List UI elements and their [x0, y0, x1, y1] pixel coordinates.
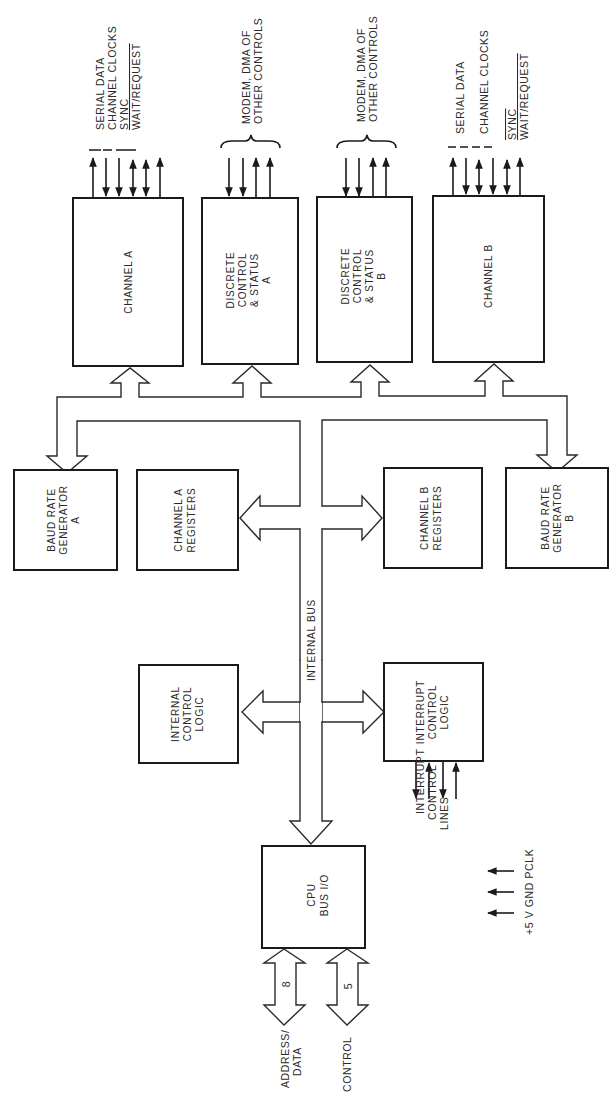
internal-bus-label: INTERNAL BUS [306, 599, 317, 681]
channel-b-signal-lines [448, 147, 520, 196]
svg-text:SYNC: SYNC [118, 98, 130, 130]
svg-text:GENERATOR: GENERATOR [58, 485, 69, 555]
interrupt-control-bus-arrow [322, 691, 384, 733]
channel-b-signal-labels: SERIAL DATA CHANNEL CLOCKS SYNC WAIT/REQ… [454, 30, 530, 140]
svg-text:BAUD RATE: BAUD RATE [540, 486, 551, 550]
svg-text:BUS I/O: BUS I/O [319, 874, 330, 916]
block-diagram: SERIAL DATA CHANNEL CLOCKS SYNC WAIT/REQ… [0, 0, 615, 1097]
svg-text:REGISTERS: REGISTERS [432, 486, 443, 551]
svg-text:SYNC: SYNC [506, 108, 518, 140]
svg-text:LINES: LINES [438, 797, 450, 830]
svg-text:GENERATOR: GENERATOR [552, 483, 563, 553]
svg-text:A: A [261, 276, 272, 283]
svg-text:CHANNEL CLOCKS: CHANNEL CLOCKS [106, 26, 118, 130]
power-input-arrows [488, 871, 514, 913]
svg-text:SERIAL DATA: SERIAL DATA [94, 57, 106, 130]
channel-a-signal-lines [89, 150, 160, 198]
dcs-b-signal-lines [337, 135, 396, 198]
internal-control-bus-arrow [242, 691, 300, 733]
chan-a-regs-bus-arrow [240, 496, 300, 540]
svg-text:MODEM, DMA OF: MODEM, DMA OF [355, 28, 367, 122]
svg-text:INTERNAL: INTERNAL [170, 686, 181, 742]
svg-text:B: B [564, 514, 575, 521]
address-data-label: ADDRESS/ DATA [279, 1030, 303, 1088]
control-bus-width: 5 [342, 983, 354, 989]
svg-text:INTERRUPT: INTERRUPT [414, 749, 426, 814]
control-label: CONTROL [341, 1036, 353, 1092]
svg-text:A: A [70, 516, 81, 523]
svg-text:LOGIC: LOGIC [439, 694, 450, 729]
svg-text:DISCRETE: DISCRETE [225, 252, 236, 309]
chan-b-regs-bus-arrow [322, 496, 382, 540]
address-data-width: 8 [280, 981, 292, 987]
svg-text:REGISTERS: REGISTERS [186, 488, 197, 553]
svg-text:BAUD RATE: BAUD RATE [46, 488, 57, 552]
svg-text:OTHER CONTROLS: OTHER CONTROLS [367, 16, 379, 122]
channel-b-label: CHANNEL B [483, 244, 494, 308]
svg-text:CHANNEL A: CHANNEL A [173, 488, 184, 552]
svg-text:B: B [376, 272, 387, 279]
channel-a-label: CHANNEL A [123, 250, 134, 314]
dcs-a-signal-lines [221, 135, 280, 198]
channel-a-signal-labels: SERIAL DATA CHANNEL CLOCKS SYNC WAIT/REQ… [94, 26, 142, 130]
svg-text:& STATUS: & STATUS [364, 249, 375, 303]
svg-text:CHANNEL B: CHANNEL B [419, 486, 430, 550]
svg-text:CPU: CPU [306, 883, 317, 907]
cpu-bus-arrow [290, 660, 332, 844]
svg-text:CONTROL: CONTROL [426, 764, 438, 820]
svg-text:ADDRESS/: ADDRESS/ [279, 1030, 291, 1088]
svg-text:MODEM, DMA OF: MODEM, DMA OF [240, 30, 252, 124]
svg-text:OTHER CONTROLS: OTHER CONTROLS [252, 18, 264, 124]
svg-text:CONTROL: CONTROL [427, 685, 438, 740]
dcs-b-signal-labels: MODEM, DMA OF OTHER CONTROLS [355, 16, 379, 122]
svg-text:CONTROL: CONTROL [237, 253, 248, 308]
svg-text:& STATUS: & STATUS [249, 253, 260, 307]
svg-text:DATA: DATA [291, 1047, 303, 1076]
svg-text:CONTROL: CONTROL [182, 687, 193, 742]
svg-text:CONTROL: CONTROL [352, 249, 363, 304]
svg-text:WAIT/REQUEST: WAIT/REQUEST [130, 43, 142, 130]
svg-text:CHANNEL CLOCKS: CHANNEL CLOCKS [478, 30, 490, 134]
svg-text:DISCRETE: DISCRETE [340, 248, 351, 305]
svg-text:WAIT/REQUEST: WAIT/REQUEST [518, 53, 530, 140]
svg-text:SERIAL DATA: SERIAL DATA [454, 61, 466, 134]
power-label: +5 V GND PCLK [523, 849, 535, 935]
svg-text:LOGIC: LOGIC [194, 696, 205, 731]
dcs-a-signal-labels: MODEM, DMA OF OTHER CONTROLS [240, 18, 264, 124]
svg-text:INTERRUPT: INTERRUPT [415, 680, 426, 744]
